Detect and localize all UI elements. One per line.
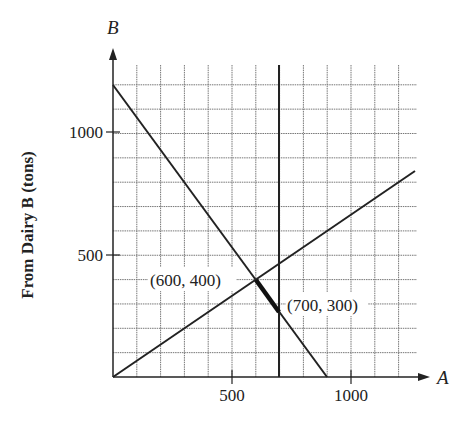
axis-label-b: B <box>107 17 119 38</box>
y-tick-label-500: 500 <box>78 246 104 265</box>
grid <box>113 65 417 377</box>
y-axis-arrow-icon <box>109 48 117 60</box>
y-tick-label-1000: 1000 <box>69 123 103 142</box>
chart-canvas: B A 500 1000 500 1000 (600, 400) (700, 3… <box>0 0 469 425</box>
axis-label-a: A <box>435 367 449 388</box>
point-label-700-300: (700, 300) <box>287 296 358 315</box>
point-label-600-400: (600, 400) <box>150 271 221 290</box>
x-axis-arrow-icon <box>418 373 430 381</box>
x-tick-label-1000: 1000 <box>334 386 368 405</box>
feasible-segment <box>256 280 279 312</box>
x-tick-label-500: 500 <box>219 386 245 405</box>
y-axis-title: From Dairy B (tons) <box>18 135 38 315</box>
